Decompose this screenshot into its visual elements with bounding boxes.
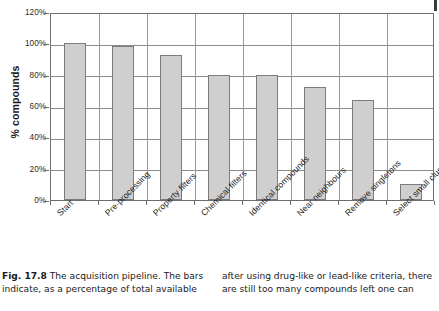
gridline-horizontal xyxy=(51,108,433,109)
x-axis-tick-mark xyxy=(146,201,147,205)
y-axis-tick-mark xyxy=(44,44,49,45)
gridline-vertical xyxy=(99,14,100,200)
x-axis-tick-mark xyxy=(50,201,51,205)
y-axis-tick-mark xyxy=(44,201,49,202)
y-axis-tick-label: 0% xyxy=(6,196,46,205)
y-axis-tick-label: 20% xyxy=(6,165,46,174)
chart-figure: % compounds 0%20%40%60%80%100%120% Start… xyxy=(0,0,439,266)
x-axis-tick-mark xyxy=(194,201,195,205)
bar xyxy=(64,43,86,200)
y-axis-tick-label: 40% xyxy=(6,133,46,142)
gridline-horizontal xyxy=(51,45,433,46)
y-axis-tick-mark xyxy=(44,107,49,108)
figure-page: % compounds 0%20%40%60%80%100%120% Start… xyxy=(0,0,439,311)
bar xyxy=(112,46,134,200)
caption-figure-number: Fig. 17.8 xyxy=(2,271,47,281)
figure-caption: Fig. 17.8 The acquisition pipeline. The … xyxy=(0,270,439,311)
caption-left-column: Fig. 17.8 The acquisition pipeline. The … xyxy=(2,270,206,295)
y-axis-tick-mark xyxy=(44,170,49,171)
bar xyxy=(160,55,182,200)
x-axis-tick-mark xyxy=(98,201,99,205)
y-axis-tick-label: 120% xyxy=(6,8,46,17)
y-axis-tick-mark xyxy=(44,13,49,14)
x-axis-tick-mark xyxy=(338,201,339,205)
gridline-horizontal xyxy=(51,139,433,140)
x-axis-tick-mark xyxy=(434,201,435,205)
y-axis-tick-mark xyxy=(44,138,49,139)
x-axis-tick-mark xyxy=(242,201,243,205)
gridline-vertical xyxy=(195,14,196,200)
y-axis-tick-label: 100% xyxy=(6,39,46,48)
y-axis-tick-label: 80% xyxy=(6,71,46,80)
x-axis-tick-mark xyxy=(290,201,291,205)
caption-right-column: after using drug-like or lead-like crite… xyxy=(222,270,437,295)
y-axis-tick-label: 60% xyxy=(6,102,46,111)
gridline-horizontal xyxy=(51,76,433,77)
x-axis-tick-mark xyxy=(386,201,387,205)
y-axis-tick-mark xyxy=(44,76,49,77)
